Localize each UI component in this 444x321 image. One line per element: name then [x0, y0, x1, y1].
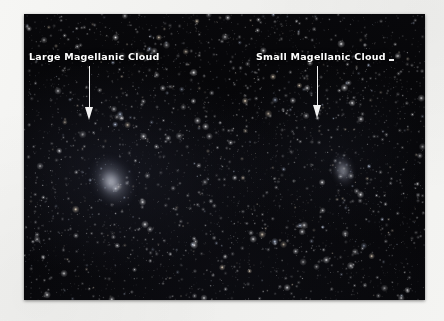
arrow-head-icon: [85, 107, 93, 120]
scanned-page: Large Magellanic Cloud Small Magellanic …: [0, 0, 444, 321]
annotation-label-smc: Small Magellanic Cloud: [256, 52, 386, 62]
arrow-head-icon: [313, 105, 321, 118]
arrow-shaft: [89, 66, 90, 107]
astronomy-photograph: Large Magellanic Cloud Small Magellanic …: [24, 14, 425, 300]
annotation-label-smc-trailing-mark: [389, 59, 394, 61]
arrow-shaft: [317, 66, 318, 105]
annotation-label-lmc: Large Magellanic Cloud: [29, 52, 160, 62]
